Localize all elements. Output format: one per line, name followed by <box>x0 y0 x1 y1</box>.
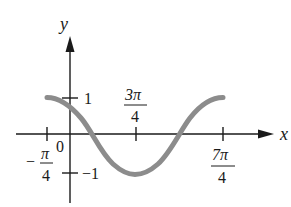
neg-pi-4-sign: − <box>26 153 35 170</box>
origin-label: 0 <box>56 138 64 155</box>
three-pi-4-numerator: 3π <box>124 86 142 103</box>
neg-pi-4-denominator: 4 <box>42 167 50 184</box>
y-tick-label-1: 1 <box>84 90 92 107</box>
seven-pi-4-denominator: 4 <box>218 169 226 186</box>
x-axis-arrow-icon <box>258 130 274 139</box>
three-pi-4-denominator: 4 <box>131 108 139 125</box>
x-axis-label: x <box>279 124 288 144</box>
y-axis-label: y <box>58 14 68 34</box>
neg-pi-4-numerator: π <box>41 145 50 162</box>
cosine-graph: y x 1 −1 0 − π 4 3π 4 7π 4 <box>0 0 291 207</box>
y-axis-arrow-icon <box>66 36 75 52</box>
y-tick-label-neg-1: −1 <box>82 165 99 182</box>
seven-pi-4-numerator: 7π <box>212 146 229 163</box>
